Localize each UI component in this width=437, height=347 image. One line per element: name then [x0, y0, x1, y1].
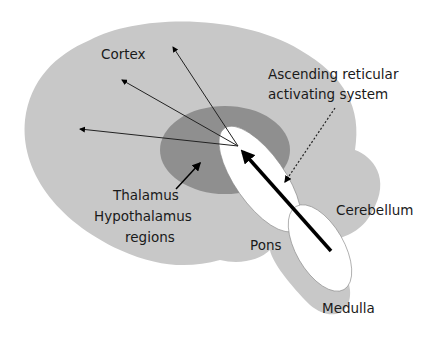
- medulla-label: Medulla: [322, 300, 375, 316]
- thalamus-label-line1: Thalamus: [112, 187, 179, 203]
- pons-label: Pons: [250, 237, 282, 253]
- thalamus-label-line3: regions: [125, 229, 175, 245]
- aras-label-line2: activating system: [268, 86, 388, 102]
- brain-diagram: Cortex Ascending reticular activating sy…: [0, 0, 437, 347]
- thalamus-label-line2: Hypothalamus: [94, 208, 192, 224]
- cerebellum-label: Cerebellum: [336, 202, 413, 218]
- cortex-label: Cortex: [101, 46, 146, 62]
- aras-label-line1: Ascending reticular: [268, 66, 399, 82]
